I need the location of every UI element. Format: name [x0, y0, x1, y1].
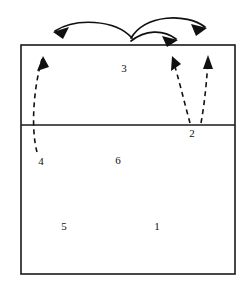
zone-label-6: 6 [115, 155, 121, 166]
court-outer-boundary [21, 45, 235, 274]
zone-label-2: 2 [189, 128, 195, 139]
court-svg [0, 0, 250, 294]
solid-arrow-center-to-left [53, 22, 132, 39]
solid-arrow-center-to-left-head [53, 27, 69, 39]
zone-label-1: 1 [154, 221, 160, 232]
zone-label-5: 5 [61, 221, 67, 232]
zone-label-4: 4 [38, 156, 44, 167]
zone-label-3: 3 [121, 63, 127, 74]
court-diagram: 3 2 4 6 5 1 [0, 0, 250, 294]
